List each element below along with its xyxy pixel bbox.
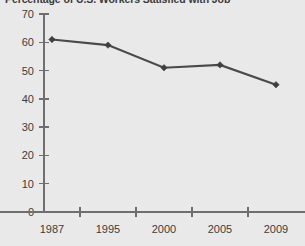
line-chart-plot: 010203040506070 19871995200020052009 bbox=[0, 0, 305, 246]
y-axis-tick-labels: 010203040506070 bbox=[22, 8, 34, 218]
x-axis-tick-label: 2005 bbox=[208, 223, 232, 235]
y-axis-tick-label: 30 bbox=[22, 121, 34, 133]
y-axis-tick-label: 40 bbox=[22, 93, 34, 105]
y-axis-tick-label: 50 bbox=[22, 65, 34, 77]
data-point-marker bbox=[273, 82, 279, 88]
data-point-marker bbox=[161, 65, 167, 71]
data-point-marker bbox=[49, 36, 55, 42]
y-axis-tick-label: 70 bbox=[22, 8, 34, 20]
x-axis-tick-label: 1995 bbox=[96, 223, 120, 235]
y-axis: 010203040506070 bbox=[22, 8, 49, 218]
chart-container: Percentage of U.S. Workers Satisfied wit… bbox=[0, 0, 305, 246]
data-series bbox=[49, 36, 279, 88]
y-axis-tick-label: 20 bbox=[22, 149, 34, 161]
data-point-marker bbox=[105, 42, 111, 48]
y-axis-tick-label: 10 bbox=[22, 178, 34, 190]
data-point-marker bbox=[217, 62, 223, 68]
x-axis-tick-label: 1987 bbox=[40, 223, 64, 235]
y-axis-tick-label: 60 bbox=[22, 36, 34, 48]
x-axis-tick-label: 2000 bbox=[152, 223, 176, 235]
x-axis-tick-label: 2009 bbox=[264, 223, 288, 235]
series-markers bbox=[49, 36, 279, 88]
series-line-percentage-satisfied bbox=[52, 39, 276, 84]
x-axis-tick-labels: 19871995200020052009 bbox=[40, 223, 288, 235]
x-axis: 19871995200020052009 bbox=[0, 207, 305, 235]
